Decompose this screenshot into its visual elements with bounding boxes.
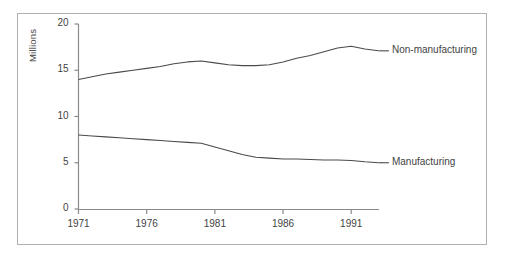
y-tick-label-15: 15 xyxy=(47,63,69,74)
x-tick-label-1976: 1976 xyxy=(127,218,167,229)
x-tick-label-1971: 1971 xyxy=(59,218,99,229)
x-tick-label-1986: 1986 xyxy=(263,218,303,229)
y-tick-label-10: 10 xyxy=(47,110,69,121)
series-label-manufacturing: Manufacturing xyxy=(392,156,455,167)
axes xyxy=(79,24,380,210)
series-line-non-manufacturing xyxy=(79,46,379,79)
series-label-non-manufacturing: Non-manufacturing xyxy=(392,44,477,55)
series-line-manufacturing xyxy=(79,135,379,163)
y-tick-label-5: 5 xyxy=(47,156,69,167)
series-lines xyxy=(79,46,389,163)
x-tick-label-1981: 1981 xyxy=(195,218,235,229)
x-tick-label-1991: 1991 xyxy=(331,218,371,229)
y-tick-label-20: 20 xyxy=(47,17,69,28)
y-tick-label-0: 0 xyxy=(47,202,69,213)
y-axis-title: Millions xyxy=(27,29,38,62)
